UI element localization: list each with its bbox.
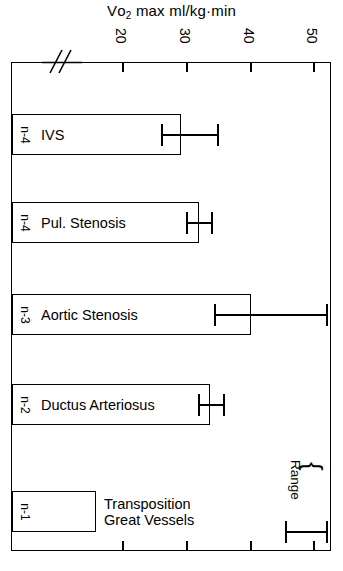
bar-row-pulmonary-stenosis: n-4 Pul. Stenosis xyxy=(12,202,330,243)
xtick-mark-top-30 xyxy=(186,63,188,72)
bar-label-transposition-great-vessels: TranspositionGreat Vessels xyxy=(104,495,194,527)
bar-label-ivs: IVS xyxy=(41,126,64,142)
bar-n-label-ivs: n-4 xyxy=(19,126,31,143)
xtick-mark-bottom-40 xyxy=(250,541,252,550)
bar-label-aortic-stenosis: Aortic Stenosis xyxy=(41,306,138,322)
chart-title-o: o xyxy=(117,2,126,19)
bar-row-ductus-arteriosus: n-2 Ductus Arteriosus xyxy=(12,384,330,425)
bar-n-label-transposition-great-vessels: n-1 xyxy=(19,503,31,520)
range-cap-high-aortic-stenosis xyxy=(326,304,328,326)
bar-label-transposition-line1: Transposition xyxy=(104,495,191,511)
xtick-mark-top-40 xyxy=(250,63,252,72)
xtick-label-50: 50 xyxy=(305,28,319,44)
xtick-mark-top-50 xyxy=(313,63,315,72)
range-cap-high-ivs xyxy=(217,124,219,146)
xtick-mark-bottom-20 xyxy=(122,541,124,550)
chart-title-subscript: 2 xyxy=(126,10,132,21)
chart-container: Vo2 max ml/kg·min 20 30 40 50 n-4 IVS xyxy=(0,0,343,571)
bar-n-label-aortic-stenosis: n-3 xyxy=(19,306,31,323)
bar-ivs xyxy=(12,114,181,155)
bar-row-transposition-great-vessels: n-1 TranspositionGreat Vessels xyxy=(12,491,330,532)
bar-row-ivs: n-4 IVS xyxy=(12,114,330,155)
xtick-mark-top-20 xyxy=(122,63,124,72)
bar-n-label-ductus-arteriosus: n-2 xyxy=(19,396,31,413)
xtick-label-30: 30 xyxy=(178,28,192,44)
chart-title-v: V xyxy=(107,2,117,19)
chart-title-units: max ml/kg·min xyxy=(132,2,236,19)
bar-label-ductus-arteriosus: Ductus Arteriosus xyxy=(41,396,155,412)
bar-n-label-pulmonary-stenosis: n-4 xyxy=(19,214,31,231)
bar-label-pulmonary-stenosis: Pul. Stenosis xyxy=(41,214,126,230)
range-cap-high-pulmonary-stenosis xyxy=(211,212,213,234)
bar-label-transposition-line2: Great Vessels xyxy=(104,512,194,528)
xtick-label-40: 40 xyxy=(242,28,256,44)
range-legend-brace-icon: { xyxy=(300,462,326,471)
range-cap-high-ductus-arteriosus xyxy=(223,394,225,416)
xtick-mark-bottom-30 xyxy=(186,541,188,550)
chart-title: Vo2 max ml/kg·min xyxy=(0,2,343,19)
bar-row-aortic-stenosis: n-3 Aortic Stenosis xyxy=(12,294,330,335)
xtick-label-20: 20 xyxy=(114,28,128,44)
plot-frame: n-4 IVS n-4 Pul. Stenosis n-3 Aortic Ste… xyxy=(11,62,331,551)
